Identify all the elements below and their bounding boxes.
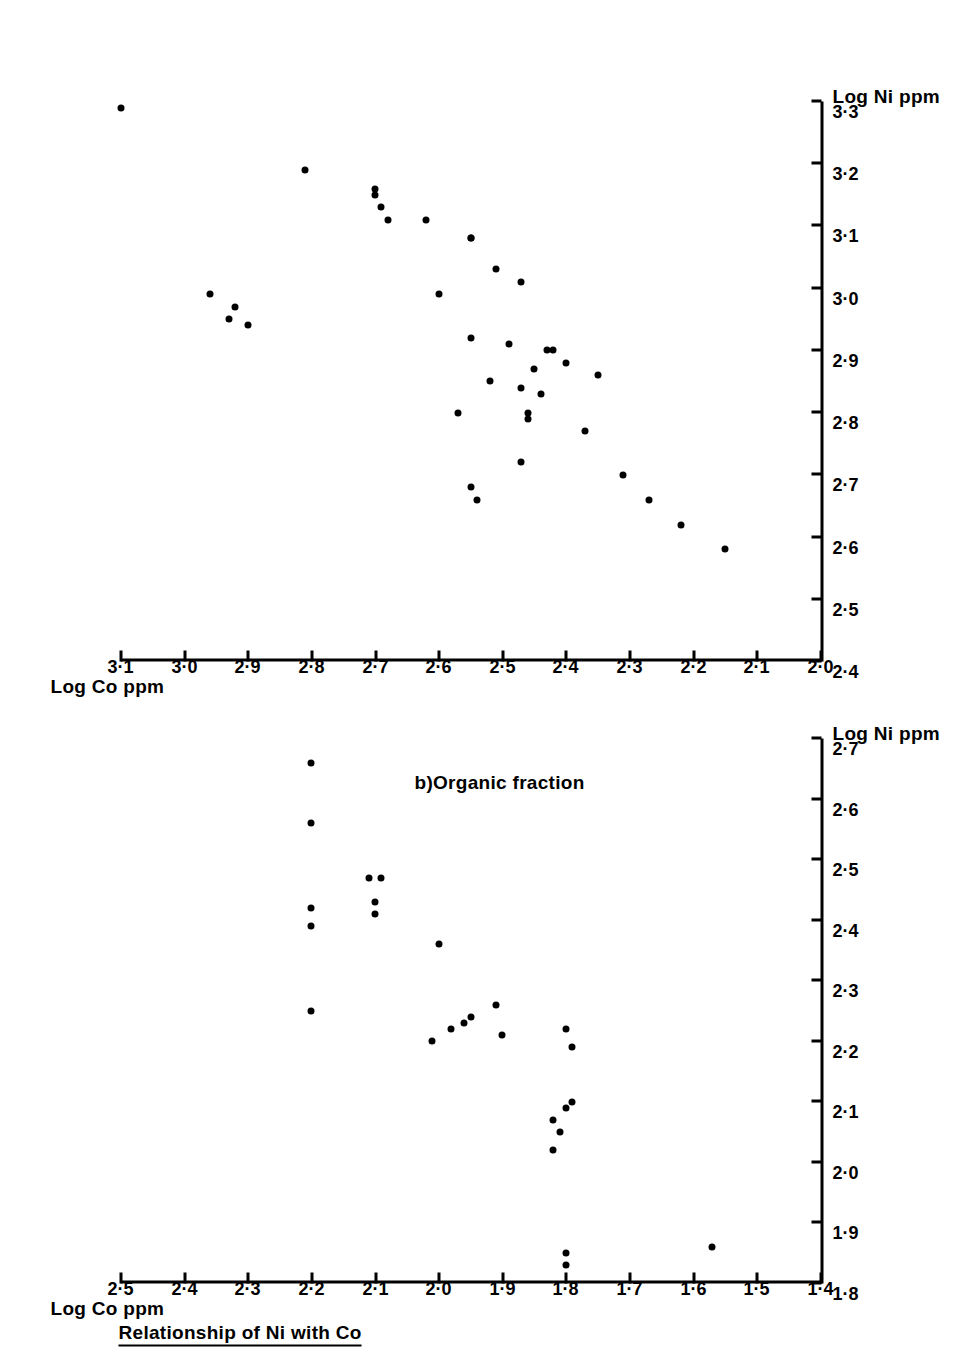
x-tick-label: 3·1 bbox=[832, 225, 858, 246]
data-point bbox=[568, 1098, 575, 1105]
data-point bbox=[549, 1146, 556, 1153]
data-point bbox=[467, 1013, 474, 1020]
data-point bbox=[467, 334, 474, 341]
data-point bbox=[537, 390, 544, 397]
data-point bbox=[460, 1019, 467, 1026]
data-point bbox=[562, 1104, 569, 1111]
data-point bbox=[517, 384, 524, 391]
x-tick bbox=[811, 978, 821, 981]
panel-b-organic: b)Organic fraction Log Co ppm Log Ni ppm… bbox=[120, 101, 820, 661]
y-tick-label: 2·6 bbox=[425, 656, 451, 677]
x-tick bbox=[811, 1160, 821, 1163]
x-tick-label: 3·3 bbox=[832, 101, 858, 122]
data-point bbox=[524, 415, 531, 422]
data-point bbox=[307, 819, 314, 826]
data-point bbox=[307, 904, 314, 911]
data-point bbox=[365, 874, 372, 881]
y-tick-label: 1·9 bbox=[489, 1278, 515, 1299]
data-point bbox=[435, 940, 442, 947]
data-point bbox=[447, 1025, 454, 1032]
y-tick-label: 2·1 bbox=[362, 1278, 388, 1299]
x-tick-label: 3·2 bbox=[832, 163, 858, 184]
x-tick bbox=[811, 286, 821, 289]
data-point bbox=[530, 365, 537, 372]
y-tick-label: 1·7 bbox=[616, 1278, 642, 1299]
data-point bbox=[454, 409, 461, 416]
x-tick bbox=[811, 223, 821, 226]
x-tick-label: 2·1 bbox=[832, 1101, 858, 1122]
data-point bbox=[371, 185, 378, 192]
x-tick-label: 2·5 bbox=[832, 599, 858, 620]
y-tick-label: 2·9 bbox=[234, 656, 260, 677]
data-point bbox=[562, 359, 569, 366]
data-point bbox=[384, 216, 391, 223]
x-tick-label: 2·5 bbox=[832, 859, 858, 880]
data-point bbox=[117, 104, 124, 111]
x-tick bbox=[811, 736, 821, 739]
x-tick bbox=[811, 1039, 821, 1042]
y-tick-label: 2·5 bbox=[489, 656, 515, 677]
panel-a-y-axis-label: Log Co ppm bbox=[50, 1297, 164, 1319]
data-point bbox=[505, 340, 512, 347]
data-point bbox=[549, 346, 556, 353]
data-point bbox=[231, 303, 238, 310]
data-point bbox=[562, 1025, 569, 1032]
data-point bbox=[244, 322, 251, 329]
x-tick bbox=[811, 472, 821, 475]
data-point bbox=[594, 371, 601, 378]
data-point bbox=[486, 378, 493, 385]
x-tick-label: 2·4 bbox=[832, 920, 858, 941]
x-tick-label: 2·8 bbox=[832, 412, 858, 433]
x-tick bbox=[811, 797, 821, 800]
x-tick-label: 2·6 bbox=[832, 799, 858, 820]
data-point bbox=[225, 315, 232, 322]
x-tick bbox=[811, 857, 821, 860]
x-tick bbox=[811, 1220, 821, 1223]
x-tick-label: 2·9 bbox=[832, 350, 858, 371]
data-point bbox=[498, 1031, 505, 1038]
panel-a-y-axis-line bbox=[120, 1280, 820, 1283]
data-point bbox=[435, 290, 442, 297]
data-point bbox=[562, 1261, 569, 1268]
x-tick bbox=[811, 918, 821, 921]
data-point bbox=[562, 1249, 569, 1256]
x-tick-label: 1·8 bbox=[832, 1283, 858, 1304]
y-tick-label: 2·2 bbox=[298, 1278, 324, 1299]
data-point bbox=[473, 496, 480, 503]
y-tick-label: 2·8 bbox=[298, 656, 324, 677]
panel-b-y-axis-label: Log Co ppm bbox=[50, 675, 164, 697]
data-point bbox=[721, 546, 728, 553]
data-point bbox=[307, 922, 314, 929]
data-point bbox=[556, 1128, 563, 1135]
x-tick-label: 2·7 bbox=[832, 738, 858, 759]
data-point bbox=[428, 1037, 435, 1044]
data-point bbox=[467, 483, 474, 490]
x-tick bbox=[811, 348, 821, 351]
y-tick-label: 2·5 bbox=[107, 1278, 133, 1299]
y-tick-label: 2·0 bbox=[807, 656, 833, 677]
panel-b-caption: b)Organic fraction bbox=[414, 771, 584, 793]
x-tick bbox=[811, 1099, 821, 1102]
data-point bbox=[492, 1001, 499, 1008]
y-tick-label: 2·1 bbox=[743, 656, 769, 677]
data-point bbox=[467, 234, 474, 241]
x-tick bbox=[811, 99, 821, 102]
data-point bbox=[708, 1243, 715, 1250]
y-tick-label: 2·4 bbox=[552, 656, 578, 677]
x-tick bbox=[811, 597, 821, 600]
data-point bbox=[206, 290, 213, 297]
x-tick-label: 2·0 bbox=[832, 1162, 858, 1183]
x-tick-label: 2·2 bbox=[832, 1041, 858, 1062]
data-point bbox=[377, 874, 384, 881]
y-tick-label: 2·3 bbox=[234, 1278, 260, 1299]
y-tick-label: 2·3 bbox=[616, 656, 642, 677]
y-tick-label: 1·8 bbox=[552, 1278, 578, 1299]
data-point bbox=[371, 898, 378, 905]
y-tick-label: 1·5 bbox=[743, 1278, 769, 1299]
panel-b-y-axis-line bbox=[120, 658, 820, 661]
data-point bbox=[492, 266, 499, 273]
figure-title: Relationship of Ni with Co bbox=[118, 1321, 361, 1346]
y-tick-label: 2·7 bbox=[362, 656, 388, 677]
x-tick-label: 2·6 bbox=[832, 537, 858, 558]
x-tick-label: 2·7 bbox=[832, 474, 858, 495]
